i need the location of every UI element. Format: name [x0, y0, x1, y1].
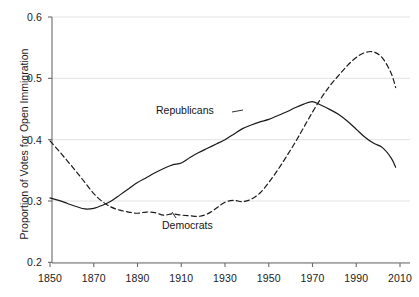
series-line-republicans: [50, 102, 396, 209]
series-paths: [50, 52, 396, 218]
x-tick-label: 1970: [301, 272, 325, 284]
x-tick-label: 1930: [213, 272, 237, 284]
tick-marks: [48, 17, 400, 267]
series-line-democrats: [50, 52, 396, 217]
series-label-democrats: Democrats: [162, 219, 213, 231]
x-tick-label: 1990: [344, 272, 368, 284]
x-tick-label: 2010: [388, 272, 412, 284]
plot-canvas: [0, 0, 419, 297]
x-tick-label: 1950: [257, 272, 281, 284]
immigration-votes-chart: 0.20.30.40.50.61850187018901910193019501…: [0, 0, 419, 297]
y-axis-title: Proportion of Votes for Open Immigration: [18, 29, 30, 259]
y-tick-label: 0.6: [8, 11, 42, 23]
annotation-leader-line: [232, 110, 243, 112]
x-tick-label: 1910: [169, 272, 193, 284]
gridlines: [52, 17, 410, 262]
x-tick-label: 1870: [82, 272, 106, 284]
x-tick-label: 1890: [126, 272, 150, 284]
annotation-leader-line: [172, 212, 176, 218]
series-label-republicans: Republicans: [156, 104, 214, 116]
x-tick-label: 1850: [38, 272, 62, 284]
